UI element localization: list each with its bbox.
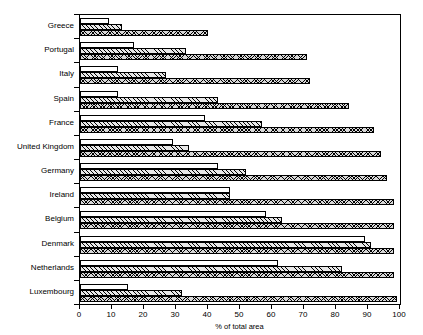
x-tick <box>271 305 272 309</box>
x-tick <box>367 305 368 309</box>
category-label-denmark: Denmark <box>3 239 77 248</box>
bar <box>80 30 208 36</box>
bar <box>80 223 394 229</box>
bar <box>80 296 397 302</box>
x-tick-label-80: 80 <box>320 310 350 319</box>
category-tick <box>74 135 79 136</box>
category-label-netherlands: Netherlands <box>3 263 77 272</box>
x-tick-label-10: 10 <box>96 310 126 319</box>
bar <box>80 78 310 84</box>
x-tick <box>239 305 240 309</box>
category-label-portugal: Portugal <box>3 45 77 54</box>
category-tick <box>74 256 79 257</box>
x-tick-label-100: 100 <box>384 310 414 319</box>
category-tick <box>74 38 79 39</box>
category-label-luxembourg: Luxembourg <box>3 287 77 296</box>
bar <box>80 127 374 133</box>
bar <box>80 103 349 109</box>
plot-area <box>79 14 401 305</box>
category-tick <box>74 159 79 160</box>
category-tick <box>74 280 79 281</box>
category-tick <box>74 87 79 88</box>
x-tick-label-30: 30 <box>160 310 190 319</box>
category-tick <box>74 232 79 233</box>
category-tick <box>74 14 79 15</box>
bar-chart: GreecePortugalItalySpainFranceUnited Kin… <box>0 0 423 335</box>
x-tick-label-20: 20 <box>128 310 158 319</box>
x-tick <box>79 305 80 309</box>
x-tick <box>303 305 304 309</box>
x-tick <box>175 305 176 309</box>
category-label-spain: Spain <box>3 94 77 103</box>
x-tick <box>335 305 336 309</box>
bar <box>80 175 387 181</box>
x-tick <box>207 305 208 309</box>
category-tick <box>74 62 79 63</box>
x-tick-label-70: 70 <box>288 310 318 319</box>
x-axis-title: % of total area <box>79 322 400 331</box>
x-tick-label-90: 90 <box>352 310 382 319</box>
category-tick <box>74 111 79 112</box>
x-tick-label-50: 50 <box>224 310 254 319</box>
category-label-germany: Germany <box>3 166 77 175</box>
bar <box>80 248 394 254</box>
bars-layer <box>80 15 400 305</box>
category-label-united-kingdom: United Kingdom <box>3 142 77 151</box>
bar <box>80 272 394 278</box>
category-label-greece: Greece <box>3 21 77 30</box>
x-tick <box>399 305 400 309</box>
x-tick <box>143 305 144 309</box>
x-tick-label-0: 0 <box>64 310 94 319</box>
x-tick-label-40: 40 <box>192 310 222 319</box>
category-label-ireland: Ireland <box>3 190 77 199</box>
category-label-france: France <box>3 118 77 127</box>
bar <box>80 151 381 157</box>
category-label-belgium: Belgium <box>3 214 77 223</box>
x-tick <box>111 305 112 309</box>
bar <box>80 54 307 60</box>
bar <box>80 199 394 205</box>
x-tick-label-60: 60 <box>256 310 286 319</box>
category-tick <box>74 183 79 184</box>
category-label-italy: Italy <box>3 69 77 78</box>
category-tick <box>74 207 79 208</box>
